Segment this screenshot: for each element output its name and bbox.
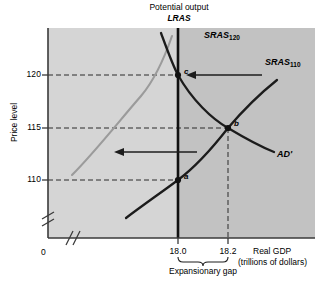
y-tick-label-120: 120 xyxy=(19,70,41,79)
x-axis-units: (trillions of dollars) xyxy=(238,258,307,267)
ad-prime-label-text: AD' xyxy=(277,149,292,159)
x-tick-label-18-0: 18.0 xyxy=(164,247,192,256)
x-tick-label-18-2: 18.2 xyxy=(214,247,242,256)
potential-output-title: Potential output xyxy=(131,3,227,12)
y-axis-title: Price level xyxy=(10,92,19,152)
y-tick-label-110: 110 xyxy=(19,175,41,184)
lras-label-wrap: LRAS xyxy=(131,14,227,23)
sras110-label-subscript: 110 xyxy=(290,61,301,68)
ad-prime-label: AD' xyxy=(277,150,292,159)
potential-output-label: Potential output xyxy=(149,2,208,12)
origin-label: 0 xyxy=(41,248,46,257)
point-label-a: a xyxy=(184,173,188,181)
economics-chart-figure: Potential output LRAS SRAS120 SRAS110 AD… xyxy=(0,0,329,286)
lras-label: LRAS xyxy=(167,13,190,23)
chart-canvas xyxy=(0,0,329,286)
x-axis-title: Real GDP xyxy=(253,247,291,256)
y-tick-label-115: 115 xyxy=(19,123,41,132)
point-marker-b xyxy=(225,125,231,131)
plot-region-left-shading xyxy=(48,28,178,238)
sras120-label-subscript: 120 xyxy=(229,34,240,41)
point-label-b: b xyxy=(234,120,239,128)
sras110-label: SRAS110 xyxy=(265,58,301,67)
sras110-label-text: SRAS xyxy=(265,57,290,67)
sras120-label-text: SRAS xyxy=(204,30,229,40)
point-label-c: c xyxy=(184,68,188,76)
point-marker-a xyxy=(175,177,181,183)
expansionary-gap-label: Expansionary gap xyxy=(150,267,256,276)
expansionary-gap-brace xyxy=(178,257,228,266)
point-marker-c xyxy=(175,72,181,78)
sras120-label: SRAS120 xyxy=(204,31,240,40)
